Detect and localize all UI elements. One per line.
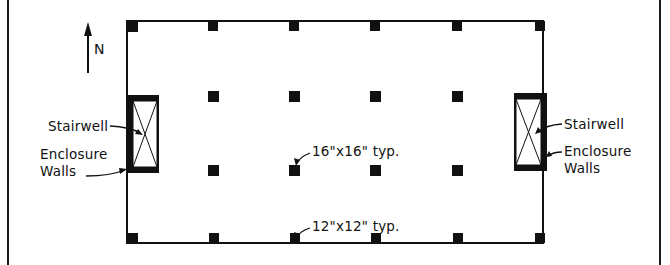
enclosure-right-label-2: Walls bbox=[564, 161, 600, 176]
interior-column-label: 16"x16" typ. bbox=[312, 144, 400, 159]
north-label: N bbox=[94, 42, 105, 57]
north-arrow-icon bbox=[84, 22, 92, 73]
enclosure-right-label-1: Enclosure bbox=[564, 144, 631, 159]
stairwell-left-label: Stairwell bbox=[48, 119, 108, 134]
building-outline bbox=[127, 21, 543, 243]
interior-columns bbox=[208, 91, 463, 176]
stairwell-right bbox=[514, 93, 547, 171]
perimeter-columns-top bbox=[127, 21, 545, 32]
perimeter-column-label: 12"x12" typ. bbox=[312, 219, 400, 234]
stairwell-left bbox=[126, 95, 159, 173]
enclosure-left-label-2: Walls bbox=[40, 164, 76, 179]
enclosure-left-label-1: Enclosure bbox=[40, 147, 107, 162]
stairwell-right-label: Stairwell bbox=[564, 117, 624, 132]
